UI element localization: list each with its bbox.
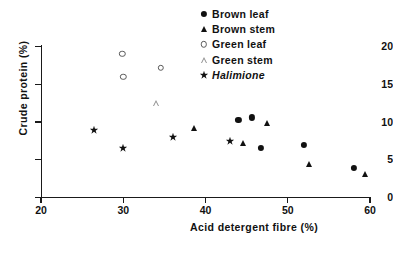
data-point xyxy=(153,100,159,106)
y-tick-label: 15 xyxy=(360,79,393,90)
data-point xyxy=(120,73,126,79)
legend-item: Brown stem xyxy=(196,21,346,36)
y-axis-label: Crude protein (%) xyxy=(17,13,29,163)
data-point xyxy=(191,125,197,131)
x-tick xyxy=(40,198,41,203)
x-tick-label: 40 xyxy=(191,205,221,216)
data-point xyxy=(362,171,368,177)
legend-label: Green leaf xyxy=(212,38,266,50)
legend-item: Green stem xyxy=(196,52,346,67)
legend-label: Brown stem xyxy=(212,23,275,35)
marker-open-circle-icon xyxy=(201,41,207,47)
marker-filled-triangle-icon xyxy=(201,26,207,32)
legend-item: Halimione xyxy=(196,68,346,83)
data-point xyxy=(248,114,254,120)
data-point xyxy=(119,51,125,57)
x-tick xyxy=(205,198,206,203)
legend-item: Green leaf xyxy=(196,37,346,52)
x-tick-label: 60 xyxy=(355,205,385,216)
data-point xyxy=(226,136,235,145)
data-point xyxy=(168,133,177,142)
data-point xyxy=(301,142,307,148)
legend-marker xyxy=(196,68,212,82)
y-tick xyxy=(35,46,41,47)
y-tick-label: 20 xyxy=(360,41,393,52)
marker-open-triangle-icon xyxy=(201,57,207,63)
x-tick xyxy=(123,198,124,203)
legend-label: Green stem xyxy=(212,54,273,66)
y-tick xyxy=(35,159,41,160)
legend-label: Halimione xyxy=(212,69,265,81)
y-tick-label: 10 xyxy=(360,117,393,128)
x-tick xyxy=(369,198,370,203)
y-axis-line xyxy=(41,45,42,198)
data-point xyxy=(258,145,264,151)
legend-marker xyxy=(196,7,212,21)
data-point xyxy=(350,165,356,171)
y-tick xyxy=(35,121,41,122)
x-tick xyxy=(287,198,288,203)
legend-marker xyxy=(196,37,212,51)
x-tick-label: 20 xyxy=(26,205,56,216)
y-tick xyxy=(35,84,41,85)
legend-marker xyxy=(196,22,212,36)
x-axis-label: Acid detergent fibre (%) xyxy=(190,221,318,233)
data-point xyxy=(235,117,241,123)
data-point xyxy=(240,140,246,146)
legend-label: Brown leaf xyxy=(212,8,269,20)
x-tick-label: 30 xyxy=(108,205,138,216)
data-point xyxy=(264,120,270,126)
y-tick-label: 0 xyxy=(360,192,393,203)
y-tick-label: 5 xyxy=(360,154,393,165)
marker-filled-circle-icon xyxy=(201,11,207,17)
x-tick-label: 50 xyxy=(273,205,303,216)
chart-legend: Brown leafBrown stemGreen leafGreen stem… xyxy=(196,6,346,83)
data-point xyxy=(90,125,99,134)
data-point xyxy=(158,64,164,70)
legend-item: Brown leaf xyxy=(196,6,346,21)
scatter-plot-figure: 05101520 2030405060 Crude protein (%) Ac… xyxy=(0,0,393,258)
legend-marker xyxy=(196,53,212,67)
data-point xyxy=(306,161,312,167)
data-point xyxy=(119,144,128,153)
marker-star-icon xyxy=(200,71,209,80)
